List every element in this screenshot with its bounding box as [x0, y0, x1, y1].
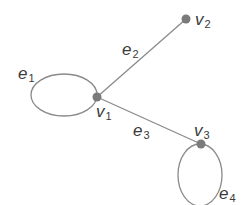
label-e3: e3 [133, 121, 150, 141]
edge-e2 [97, 19, 186, 97]
graph-diagram: e1 e2 e3 e4 v1 v2 v3 [0, 0, 246, 205]
label-e4: e4 [219, 184, 236, 204]
label-v3: v3 [194, 121, 210, 141]
vertex-v2 [182, 15, 191, 24]
edge-e4-loop [178, 144, 222, 205]
vertex-v1 [93, 93, 102, 102]
label-e2: e2 [122, 40, 139, 60]
edge-e1-loop [31, 74, 97, 116]
label-v1: v1 [96, 102, 112, 122]
label-e1: e1 [18, 64, 35, 84]
label-v2: v2 [195, 10, 211, 30]
